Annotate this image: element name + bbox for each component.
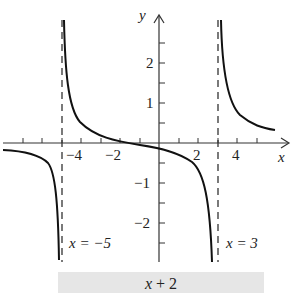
x-tick-label-neg4: −4 (66, 147, 82, 163)
x-tick-label-4: 4 (232, 147, 240, 163)
y-axis-label: y (137, 7, 146, 23)
x-ticks (23, 138, 257, 143)
caption-band: x + 2 (58, 272, 264, 293)
x-tick-label-2: 2 (193, 147, 201, 163)
chart-canvas: −4 −2 2 4 x 2 1 −1 −2 y x = −5 x = 3 (0, 0, 294, 293)
caption-rest: + 2 (152, 275, 177, 292)
caption-variable: x (145, 275, 152, 292)
y-tick-label-1: 1 (146, 95, 154, 111)
x-axis-label: x (277, 149, 285, 165)
asymptote-left-label: x = −5 (68, 235, 111, 251)
asymptote-right-label: x = 3 (225, 235, 258, 251)
y-tick-label-neg2: −2 (134, 215, 150, 231)
caption-text: x + 2 (58, 275, 264, 293)
y-tick-label-2: 2 (146, 55, 154, 71)
curve-left-branch (3, 150, 59, 260)
x-tick-label-neg2: −2 (105, 147, 121, 163)
y-tick-label-neg1: −1 (134, 175, 150, 191)
curve-right-branch (221, 20, 275, 130)
